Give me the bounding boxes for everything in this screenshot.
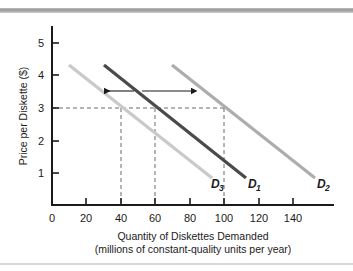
curve-labels: D 3 D 1 D 2 [211,177,330,193]
x-tick-label-140: 140 [284,212,302,224]
x-tick-label-20: 20 [80,212,92,224]
x-tick-label-40: 40 [115,212,127,224]
y-tick-label-3: 3 [38,102,44,114]
y-axis-title: Price per Diskette ($) [17,67,29,166]
axes [52,26,334,206]
demand-curve-d1 [104,65,246,178]
demand-curve-d3 [69,65,212,178]
chart-figure: 5 4 3 2 1 0 20 40 60 80 100 120 140 D 3 … [0,0,353,271]
y-tick-label-2: 2 [38,135,44,147]
curve-label-d3-subscript: 3 [219,183,224,193]
demand-curve-plot: 5 4 3 2 1 0 20 40 60 80 100 120 140 D 3 … [0,0,353,271]
demand-curve-d2 [172,65,315,178]
curve-label-d2-subscript: 2 [324,183,330,193]
y-tick-labels: 5 4 3 2 1 [38,37,44,179]
x-tick-label-0: 0 [49,212,55,224]
x-tick-label-60: 60 [149,212,161,224]
curve-label-d1-subscript: 1 [256,183,261,193]
reference-lines [52,108,224,205]
y-tick-label-4: 4 [38,69,44,81]
x-tick-label-80: 80 [184,212,196,224]
x-tick-labels: 0 20 40 60 80 100 120 140 [49,212,302,224]
x-tick-label-120: 120 [250,212,268,224]
x-axis-subtitle: (millions of constant-quality units per … [95,243,292,255]
x-tick-label-100: 100 [215,212,233,224]
x-axis-title: Quantity of Diskettes Demanded [117,230,268,242]
y-tick-label-1: 1 [38,167,44,179]
y-tick-label-5: 5 [38,37,44,49]
demand-curves [69,65,315,178]
